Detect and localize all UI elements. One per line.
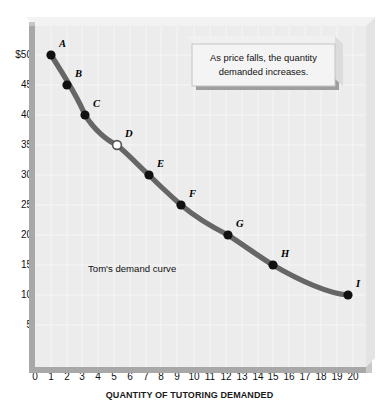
callout-right-face <box>335 36 343 86</box>
frame-top-bevel <box>26 17 375 26</box>
callout-line-2: demanded increases. <box>219 66 309 77</box>
data-point-g <box>223 230 232 239</box>
data-point-b <box>62 80 71 89</box>
data-point-label-e: E <box>156 158 164 169</box>
data-point-label-a: A <box>58 38 66 49</box>
y-axis-spine-highlight <box>29 22 35 26</box>
data-point-f <box>176 200 185 209</box>
data-point-d <box>113 141 122 150</box>
plot-area: A B C D E F G H I Tom's demand curve As … <box>0 0 379 407</box>
annotation-callout: As price falls, the quantity demanded in… <box>187 36 343 90</box>
callout-line-1: As price falls, the quantity <box>210 52 317 63</box>
y-axis-spine <box>29 22 35 367</box>
frame-right-bevel <box>366 17 375 367</box>
callout-front-face <box>192 44 335 86</box>
data-point-label-c: C <box>93 98 101 109</box>
data-point-e <box>144 170 153 179</box>
demand-curve-label: Tom's demand curve <box>88 263 176 274</box>
data-point-a <box>46 50 55 59</box>
data-point-label-f: F <box>188 188 196 199</box>
data-point-h <box>268 260 277 269</box>
data-point-label-h: H <box>280 248 290 259</box>
x-axis-spine <box>29 367 366 373</box>
data-point-c <box>80 110 89 119</box>
callout-top-face <box>187 36 343 44</box>
data-point-label-d: D <box>124 128 133 139</box>
data-point-label-g: G <box>236 218 244 229</box>
data-point-i <box>343 290 352 299</box>
demand-curve-figure: PRICE OF TUTORING(dollars per hour) $50 … <box>0 0 379 407</box>
data-point-label-b: B <box>74 68 82 79</box>
